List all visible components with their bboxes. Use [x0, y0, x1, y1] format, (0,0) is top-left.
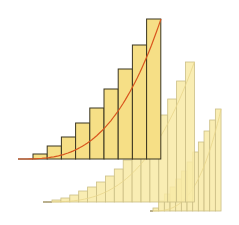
riemann-bar	[215, 109, 221, 211]
riemann-bar	[105, 176, 114, 202]
riemann-bar	[90, 108, 104, 159]
riemann-bar	[123, 160, 132, 202]
panel-front	[18, 19, 161, 159]
riemann-bar	[61, 137, 75, 159]
riemann-bar	[88, 187, 97, 202]
riemann-bar	[186, 62, 195, 202]
riemann-sum-illustration	[0, 0, 239, 225]
riemann-bar	[76, 123, 90, 159]
riemann-bar	[204, 131, 210, 211]
riemann-bar	[79, 191, 88, 202]
riemann-sum-figure	[0, 0, 239, 225]
riemann-bar	[97, 182, 106, 202]
riemann-bar	[177, 81, 186, 202]
riemann-bar	[114, 169, 123, 202]
riemann-bar	[159, 201, 165, 211]
riemann-bar	[104, 89, 118, 159]
riemann-bar	[118, 69, 132, 159]
